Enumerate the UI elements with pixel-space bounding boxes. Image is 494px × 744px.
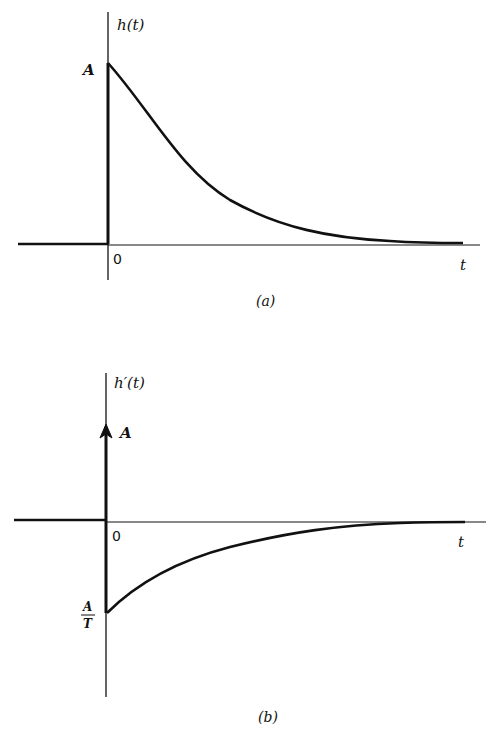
b-origin-label: 0 (112, 528, 121, 544)
a-y-axis-label: h(t) (117, 16, 145, 34)
b-fraction-denominator: T (83, 617, 93, 631)
b-x-axis-label: t (458, 533, 465, 551)
a-origin-label: 0 (113, 251, 122, 267)
b-y-axis-label: h′(t) (114, 374, 145, 392)
a-amplitude-label: A (81, 61, 95, 79)
figure-canvas: h(t) A 0 t (a) h′(t) A 0 t A T (b) (0, 0, 494, 744)
b-impulse-label: A (118, 424, 132, 442)
a-exponential-curve (108, 63, 463, 243)
b-initial-value-label: A T (81, 600, 95, 631)
a-caption: (a) (256, 293, 275, 309)
b-caption: (b) (258, 709, 278, 725)
b-exponential-curve (107, 522, 465, 613)
a-x-axis-label: t (460, 256, 467, 274)
figure-b: h′(t) A 0 t A T (b) (14, 373, 486, 725)
figure-a: h(t) A 0 t (a) (18, 12, 480, 309)
b-fraction-numerator: A (82, 600, 92, 614)
